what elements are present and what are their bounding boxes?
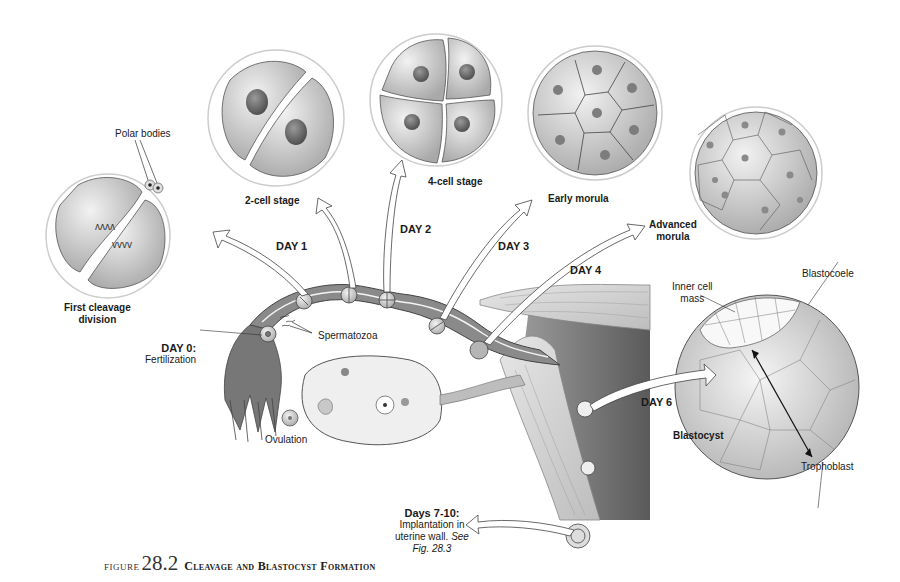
figure-label: FIGURE bbox=[104, 562, 140, 572]
advanced-morula-line1: Advanced bbox=[649, 219, 697, 231]
day-6-label: DAY 6 bbox=[641, 396, 672, 408]
four-cell-label: 4-cell stage bbox=[428, 176, 482, 188]
svg-text:vvvv: vvvv bbox=[112, 239, 132, 250]
two-cell-embryo bbox=[208, 50, 344, 186]
figure-number: 28.2 bbox=[142, 551, 179, 575]
blastocoele-label: Blastocoele bbox=[802, 268, 854, 280]
day-0-label: DAY 0: Fertilization bbox=[145, 342, 196, 366]
days-7-10-line1: Implantation in bbox=[395, 519, 469, 531]
days-7-10-label: Days 7-10: Implantation in uterine wall.… bbox=[395, 507, 469, 555]
day-0-title: DAY 0: bbox=[145, 342, 196, 354]
svg-text:ʌʌʌʌ: ʌʌʌʌ bbox=[95, 221, 115, 232]
day-4-label: DAY 4 bbox=[570, 264, 601, 276]
first-cleavage-line2: division bbox=[64, 314, 131, 326]
day-3-label: DAY 3 bbox=[498, 240, 529, 252]
inner-cell-mass-line1: Inner cell bbox=[672, 281, 713, 293]
day-0-desc: Fertilization bbox=[145, 354, 196, 366]
figure-reference-link: Fig. 28.3 bbox=[395, 543, 469, 555]
figure-caption: FIGURE28.2Cleavage and Blastocyst Format… bbox=[104, 551, 376, 576]
figure-title: Cleavage and Blastocyst Formation bbox=[184, 559, 375, 573]
early-morula bbox=[528, 46, 662, 180]
advanced-morula-label: Advanced morula bbox=[649, 219, 697, 243]
day-1-label: DAY 1 bbox=[276, 240, 307, 252]
blastocyst-label: Blastocyst bbox=[673, 430, 724, 442]
days-7-10-title: Days 7-10: bbox=[395, 507, 469, 519]
cleavage-illustration: ʌʌʌʌ vvvv bbox=[0, 0, 900, 582]
first-cleavage-cell: ʌʌʌʌ vvvv bbox=[46, 140, 170, 298]
day-2-label: DAY 2 bbox=[400, 223, 431, 235]
days-7-10-see: See bbox=[451, 531, 469, 542]
days-7-10-line2: uterine wall. bbox=[395, 531, 448, 542]
advanced-morula-line2: morula bbox=[649, 231, 697, 243]
trophoblast-label: Trophoblast bbox=[801, 461, 853, 473]
spermatozoa-label: Spermatozoa bbox=[318, 330, 377, 342]
first-cleavage-label: First cleavage division bbox=[64, 302, 131, 326]
spermatozoa bbox=[280, 315, 312, 333]
ovary bbox=[302, 356, 525, 445]
inner-cell-mass-label: Inner cell mass bbox=[672, 281, 713, 305]
first-cleavage-line1: First cleavage bbox=[64, 302, 131, 314]
four-cell-embryo bbox=[370, 34, 502, 166]
advanced-morula bbox=[690, 107, 822, 239]
ovulation-label: Ovulation bbox=[265, 434, 307, 446]
inner-cell-mass-line2: mass bbox=[672, 293, 713, 305]
early-morula-label: Early morula bbox=[548, 193, 609, 205]
polar-bodies-label: Polar bodies bbox=[115, 128, 171, 140]
two-cell-label: 2-cell stage bbox=[245, 195, 299, 207]
